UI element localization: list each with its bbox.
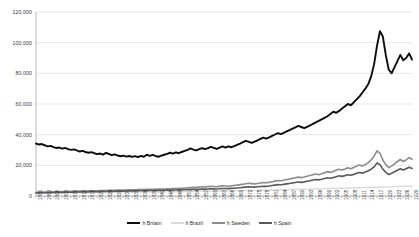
series-line-sweden: [36, 151, 412, 193]
x-tick-label: 1887: [292, 190, 297, 200]
x-tick-label: 1914: [370, 190, 375, 200]
x-tick-label: 1860: [213, 190, 218, 200]
y-tick-label: 100,000: [0, 40, 32, 46]
legend-swatch-icon: [171, 222, 184, 224]
x-tick-label: 1929: [414, 190, 419, 200]
x-tick-label: 1923: [397, 190, 402, 200]
series-lines: [36, 31, 412, 193]
x-tick-label: 1926: [405, 190, 410, 200]
x-tick-label: 1845: [169, 190, 174, 200]
x-tick-label: 1851: [187, 190, 192, 200]
x-tick-label: 1800: [38, 190, 43, 200]
x-tick-label: 1821: [99, 190, 104, 200]
plot-area: [0, 0, 419, 237]
x-tick-label: 1899: [327, 190, 332, 200]
y-tick-label: 0: [0, 193, 32, 199]
y-tick-label: 60,000: [0, 101, 32, 107]
x-tick-label: 1842: [160, 190, 165, 200]
x-tick-label: 1827: [117, 190, 122, 200]
legend-item[interactable]: h Britain: [127, 220, 161, 226]
line-chart: 120,000100,00080,00060,00040,00020,0000 …: [0, 0, 419, 237]
x-tick-label: 1863: [222, 190, 227, 200]
legend-item[interactable]: h Spain: [259, 220, 292, 226]
x-tick-label: 1812: [73, 190, 78, 200]
y-tick-label: 40,000: [0, 132, 32, 138]
x-tick-label: 1875: [257, 190, 262, 200]
legend-label: h Britain: [142, 220, 161, 226]
x-tick-label: 1881: [274, 190, 279, 200]
legend-swatch-icon: [127, 222, 140, 224]
x-tick-label: 1836: [143, 190, 148, 200]
x-tick-label: 1818: [90, 190, 95, 200]
x-tick-label: 1893: [309, 190, 314, 200]
x-tick-label: 1884: [283, 190, 288, 200]
x-tick-label: 1917: [379, 190, 384, 200]
x-tick-label: 1920: [388, 190, 393, 200]
legend-label: h Brazil: [186, 220, 203, 226]
x-tick-label: 1866: [230, 190, 235, 200]
x-tick-label: 1806: [55, 190, 60, 200]
x-tick-label: 1857: [204, 190, 209, 200]
x-tick-label: 1815: [82, 190, 87, 200]
legend-item[interactable]: h Brazil: [171, 220, 203, 226]
x-tick-label: 1905: [344, 190, 349, 200]
legend-swatch-icon: [212, 222, 225, 224]
x-tick-label: 1890: [300, 190, 305, 200]
x-tick-label: 1839: [152, 190, 157, 200]
x-tick-label: 1854: [195, 190, 200, 200]
x-tick-label: 1824: [108, 190, 113, 200]
x-tick-label: 1908: [353, 190, 358, 200]
legend-item[interactable]: h Sweden: [212, 220, 250, 226]
x-tick-label: 1833: [134, 190, 139, 200]
y-tick-label: 80,000: [0, 70, 32, 76]
legend-label: h Sweden: [227, 220, 250, 226]
x-tick-label: 1902: [335, 190, 340, 200]
y-tick-label: 20,000: [0, 162, 32, 168]
x-tick-label: 1809: [64, 190, 69, 200]
x-tick-label: 1872: [248, 190, 253, 200]
legend-swatch-icon: [259, 222, 272, 224]
series-line-britain: [36, 31, 412, 157]
x-tick-label: 1848: [178, 190, 183, 200]
x-tick-label: 1869: [239, 190, 244, 200]
x-tick-label: 1878: [265, 190, 270, 200]
y-tick-label: 120,000: [0, 9, 32, 15]
legend-label: h Spain: [274, 220, 292, 226]
x-tick-label: 1830: [125, 190, 130, 200]
gridlines: [36, 12, 412, 165]
x-tick-label: 1911: [362, 190, 367, 200]
x-tick-label: 1803: [47, 190, 52, 200]
x-tick-label: 1896: [318, 190, 323, 200]
chart-legend: h Britainh Brazilh Swedenh Spain: [0, 220, 419, 226]
